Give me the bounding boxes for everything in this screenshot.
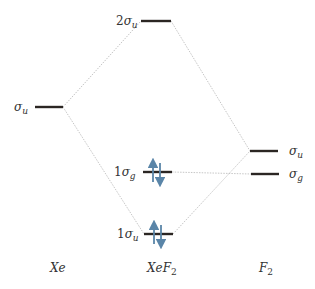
connector-xe-to-2sigma-u xyxy=(63,21,141,107)
label-2sigma-u: 2σu xyxy=(116,14,138,30)
mo-diagram: σu 2σu 1σg 1σu σu σg Xe XeF2 F2 xyxy=(0,0,315,289)
label-1sigma-g: 1σg xyxy=(114,165,136,181)
label-f2-sigma-u: σu xyxy=(289,144,303,160)
column-label-xef2: XeF2 xyxy=(146,261,177,277)
column-label-f2: F2 xyxy=(258,261,273,277)
connector-1sigma-g-to-f2-sigma-g xyxy=(172,172,251,174)
energy-levels xyxy=(35,21,279,234)
electron-pairs xyxy=(153,163,161,244)
label-f2-sigma-g: σg xyxy=(289,167,303,183)
connector-1sigma-u-to-f2-sigma-u xyxy=(173,151,250,234)
connector-lines xyxy=(63,21,251,234)
label-xe-sigma-u: σu xyxy=(14,100,28,116)
column-label-xe: Xe xyxy=(49,261,66,275)
connector-2sigma-u-to-f2-sigma-u xyxy=(171,21,250,151)
label-1sigma-u: 1σu xyxy=(117,227,139,243)
